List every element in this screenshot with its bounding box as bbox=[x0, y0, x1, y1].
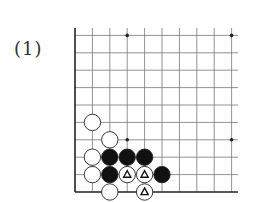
black-stone bbox=[102, 149, 118, 165]
black-stone bbox=[136, 149, 152, 165]
star-point bbox=[230, 34, 234, 38]
black-stone bbox=[119, 149, 135, 165]
black-stone bbox=[154, 166, 170, 182]
white-stone bbox=[136, 184, 152, 200]
white-stone bbox=[84, 166, 100, 182]
white-stone bbox=[102, 184, 118, 200]
white-stone bbox=[102, 132, 118, 148]
white-stone bbox=[84, 114, 100, 130]
go-board bbox=[0, 0, 255, 202]
white-stone bbox=[84, 149, 100, 165]
white-stone bbox=[136, 166, 152, 182]
star-point bbox=[230, 138, 234, 142]
star-point bbox=[125, 34, 129, 38]
white-stone bbox=[119, 166, 135, 182]
star-point bbox=[125, 138, 129, 142]
black-stone bbox=[102, 166, 118, 182]
